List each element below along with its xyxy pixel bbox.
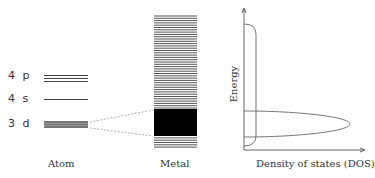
atom-caption: Atom (48, 158, 75, 169)
dos-s-band-curve (244, 24, 256, 146)
dos-axes (242, 8, 365, 152)
atom-level-label-3d: 3 d (8, 117, 31, 130)
metal-d-band (154, 109, 197, 136)
atom-level-label-4s: 4 s (8, 92, 30, 105)
dos-curves (244, 24, 350, 146)
atom-level-label-4p: 4 p (8, 69, 31, 82)
atom-4p-level (44, 76, 88, 82)
dos-d-band-curve (244, 111, 350, 137)
metal-caption: Metal (160, 158, 189, 169)
atom-3d-level (44, 121, 88, 128)
dos-x-axis-label: Density of states (DOS) (256, 158, 375, 169)
dashed-connector (90, 110, 153, 136)
dos-y-axis-label: Energy (228, 65, 239, 102)
